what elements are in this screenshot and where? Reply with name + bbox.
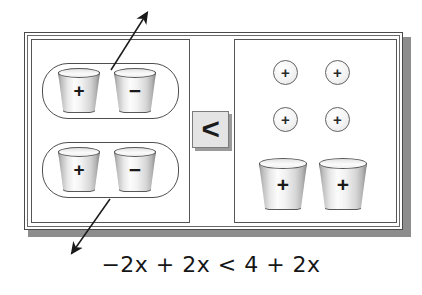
cup-left-bottom-minus[interactable]: − <box>114 147 156 192</box>
chip-sign: + <box>326 108 349 131</box>
comparator-box[interactable]: < <box>192 111 229 148</box>
cup-right-plus-1[interactable]: + <box>259 158 307 210</box>
cup-left-bottom-plus[interactable]: + <box>58 147 100 192</box>
less-than-symbol: < <box>201 114 219 144</box>
cup-sign: + <box>259 175 307 194</box>
cup-rim <box>259 158 307 169</box>
chip-sign: + <box>274 108 297 131</box>
plus-chip-2[interactable]: + <box>325 60 350 85</box>
cup-sign: + <box>319 175 367 194</box>
plus-chip-3[interactable]: + <box>273 107 298 132</box>
cup-left-top-minus[interactable]: − <box>114 68 156 113</box>
chip-sign: + <box>326 61 349 84</box>
cup-rim <box>114 147 156 157</box>
cup-rim <box>114 68 156 78</box>
cup-rim <box>58 147 100 157</box>
cup-left-top-plus[interactable]: + <box>58 68 100 113</box>
plus-chip-1[interactable]: + <box>273 60 298 85</box>
cup-sign: + <box>58 81 100 100</box>
plus-chip-4[interactable]: + <box>325 107 350 132</box>
inequality-equation: −2x + 2x < 4 + 2x <box>0 252 422 277</box>
cup-rim <box>58 68 100 78</box>
cup-sign: − <box>114 81 156 100</box>
algebra-tiles-inequality-diagram: + − + − < + + + + + + <box>0 0 422 295</box>
cup-sign: − <box>114 160 156 179</box>
chip-sign: + <box>274 61 297 84</box>
cup-sign: + <box>58 160 100 179</box>
cup-rim <box>319 158 367 169</box>
cup-right-plus-2[interactable]: + <box>319 158 367 210</box>
